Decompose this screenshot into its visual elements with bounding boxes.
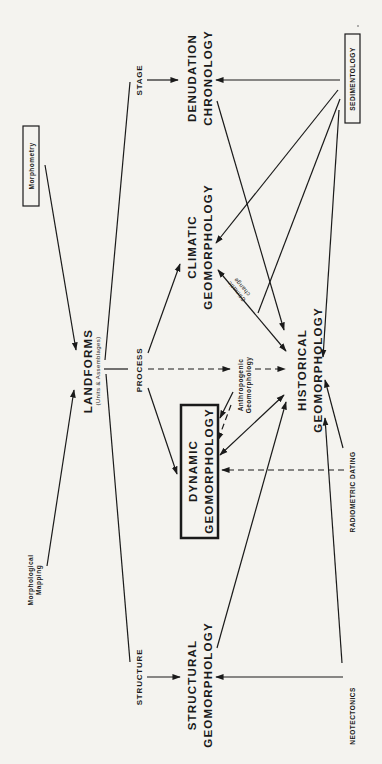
speck xyxy=(357,25,359,27)
anthropogenic-label: Anthropogenic xyxy=(237,359,245,412)
dynamic-geomorphology-label: GEOMORPHOLOGY xyxy=(203,408,215,534)
edge-sedimentology-historical xyxy=(323,110,339,357)
geomorphology-diagram: Morphometry Morphological Mapping LANDFO… xyxy=(0,0,382,764)
morphometry-label: Morphometry xyxy=(28,142,36,189)
climatic-label: CLIMATIC xyxy=(186,215,198,279)
edge-historical-dynamic xyxy=(220,395,284,455)
edge-process-dynamic xyxy=(148,388,177,474)
landforms-sublabel: (Units & Assemblages) xyxy=(95,336,101,405)
edge-radiometric-historical xyxy=(325,380,343,448)
edge-process-climatic xyxy=(148,264,180,353)
edge-mapping-landforms xyxy=(47,390,74,566)
morphological-mapping-line2: Mapping xyxy=(35,565,43,595)
edge-sedimentology-climatic xyxy=(216,90,338,243)
edge-denudation-historical xyxy=(217,101,284,330)
dynamic-label: DYNAMIC xyxy=(187,440,199,502)
structure-label: STRUCTURE xyxy=(135,649,144,706)
landforms-label: LANDFORMS xyxy=(82,329,94,413)
climatic-geomorphology-label: GEOMORPHOLOGY xyxy=(202,184,214,310)
structural-geomorphology-label: GEOMORPHOLOGY xyxy=(202,622,214,748)
edge-morphometry-landforms xyxy=(45,165,76,350)
historical-label: HISTORICAL xyxy=(296,329,308,411)
morphological-mapping-line1: Morphological xyxy=(27,555,35,606)
edge-climatic-historical xyxy=(218,270,286,351)
anthropogenic-geomorphology-label: Geomorphology xyxy=(245,357,253,414)
historical-geomorphology-label: GEOMORPHOLOGY xyxy=(312,307,324,433)
sedimentology-label: SEDIMENTOLOGY xyxy=(349,47,356,111)
edge-anthropogenic-dynamic-solid xyxy=(220,392,233,418)
chronology-label: CHRONOLOGY xyxy=(202,30,214,126)
radiometric-dating-label: RADIOMETRIC DATING xyxy=(349,451,356,532)
edge-landforms-structure xyxy=(106,374,130,662)
process-label: PROCESS xyxy=(135,348,144,393)
stage-label: STAGE xyxy=(135,65,144,96)
neotectonics-label: NEOTECTONICS xyxy=(349,687,356,745)
structural-label: STRUCTURAL xyxy=(186,640,198,731)
denudation-label: DENUDATION xyxy=(186,34,198,122)
edge-landforms-stage xyxy=(105,82,130,360)
edge-neotectonics-historical xyxy=(325,418,342,663)
edge-structural-historical xyxy=(217,402,286,648)
